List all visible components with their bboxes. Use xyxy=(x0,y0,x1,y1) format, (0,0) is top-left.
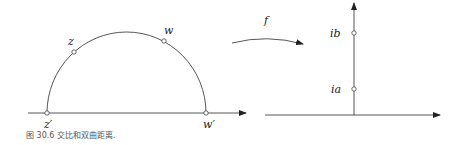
point-w-prime xyxy=(204,111,208,115)
label-z: z xyxy=(67,35,74,48)
label-f: f xyxy=(263,14,270,27)
point-w xyxy=(162,39,166,43)
label-w: w xyxy=(164,24,174,37)
point-z-prime xyxy=(45,111,49,115)
figure-caption: 图 30.6 交比和双曲距离. xyxy=(26,129,115,140)
label-w-prime: w′ xyxy=(203,118,215,131)
map-arrow xyxy=(232,39,303,44)
point-ia xyxy=(352,87,356,91)
point-ib xyxy=(352,31,356,35)
label-ia: ia xyxy=(331,83,341,96)
label-ib: ib xyxy=(330,27,341,40)
point-z xyxy=(72,50,76,54)
cross-ratio-diagram: z w z′ w′ f ib ia xyxy=(0,0,449,145)
